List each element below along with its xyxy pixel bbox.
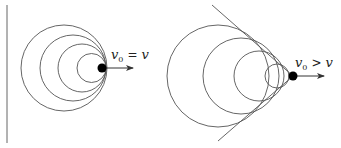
wavefront-circle xyxy=(203,38,279,114)
moving-source-dot xyxy=(98,64,107,73)
left-wavefronts xyxy=(21,25,107,111)
wave-diagram: v0=v v0>v xyxy=(0,0,341,148)
left-panel-subsonic-limit: v0=v xyxy=(7,5,150,143)
wavefront-circle xyxy=(21,25,107,111)
right-panel-supersonic: v0>v xyxy=(167,5,334,141)
wavefront-circle xyxy=(234,51,284,101)
velocity-label-equal: v0=v xyxy=(111,47,150,64)
moving-source-dot xyxy=(289,72,298,81)
right-wavefronts xyxy=(167,25,289,127)
wavefront-circle xyxy=(40,35,106,101)
velocity-label-greater: v0>v xyxy=(295,55,334,72)
mach-cone-upper-line xyxy=(212,5,293,76)
